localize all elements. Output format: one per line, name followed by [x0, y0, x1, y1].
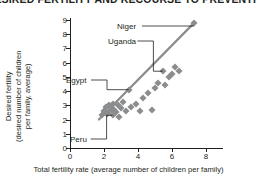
y-tick-label-4: 4: [55, 87, 67, 96]
leader-line-egypt: [91, 80, 129, 90]
data-point: [140, 95, 147, 102]
x-tick-label-4: 4: [136, 152, 140, 161]
annotation-label-niger: Niger: [117, 22, 136, 31]
chart-page: DESIRED FERTILITY AND RECOURSE TO PREVEN…: [0, 0, 257, 181]
data-point: [162, 82, 169, 89]
y-tick-label-0: 0: [55, 144, 67, 153]
x-axis-line: [70, 148, 223, 149]
y-tick-label-9: 9: [55, 16, 67, 25]
x-axis-title: Total fertility rate (average number of …: [0, 165, 257, 174]
leader-line-uganda: [137, 41, 162, 71]
data-point: [175, 68, 182, 75]
x-tick-label-8: 8: [204, 152, 208, 161]
data-point: [145, 89, 152, 96]
data-point: [136, 107, 143, 114]
y-axis-title-line1: Desired fertility: [4, 71, 13, 121]
y-axis-title-line3: per family, average): [23, 63, 32, 129]
annotation-label-egypt: Egypt: [66, 76, 86, 85]
data-point: [191, 19, 198, 26]
y-tick-label-6: 6: [55, 58, 67, 67]
annotation-label-peru: Peru: [70, 135, 87, 144]
data-point: [125, 86, 132, 93]
y-axis-title: Desired fertility (desired number of chi…: [4, 32, 33, 160]
y-axis-title-line2: (desired number of children: [13, 51, 22, 142]
data-point: [148, 106, 155, 113]
x-tick-label-2: 2: [102, 152, 106, 161]
scatter-plot: 0123456789 02468 Desired fertility (desi…: [0, 0, 257, 181]
data-point: [116, 113, 123, 120]
annotation-label-uganda: Uganda: [108, 37, 136, 46]
y-tick-label-3: 3: [55, 101, 67, 110]
x-tick-label-6: 6: [170, 152, 174, 161]
y-tick-label-7: 7: [55, 44, 67, 53]
y-tick-label-2: 2: [55, 115, 67, 124]
data-point: [159, 68, 166, 75]
y-tick-label-1: 1: [55, 129, 67, 138]
y-tick-label-8: 8: [55, 30, 67, 39]
x-tick-label-0: 0: [68, 152, 72, 161]
